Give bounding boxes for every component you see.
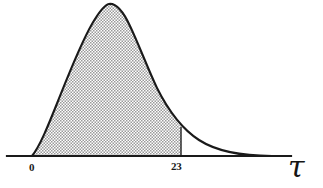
x-axis-symbol-tau: τ: [288, 152, 305, 182]
plot-canvas: [0, 0, 323, 188]
density-curve-figure: 0 23 τ: [0, 0, 323, 188]
x-axis-tick-label-23: 23: [171, 161, 181, 172]
shaded-area-region: [32, 4, 181, 156]
x-axis-tick-label-0: 0: [29, 162, 34, 173]
